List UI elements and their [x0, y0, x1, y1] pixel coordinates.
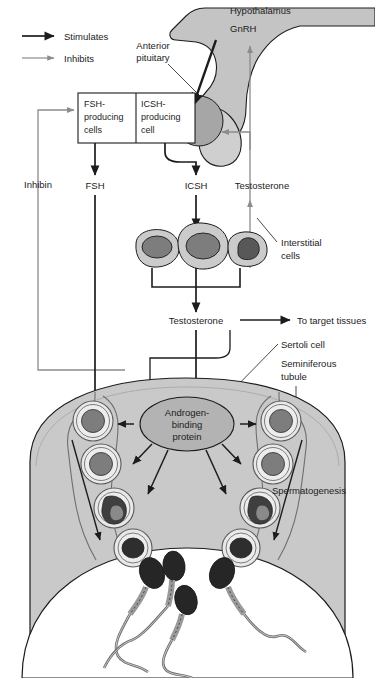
interstitial-nucleus-left [142, 236, 172, 258]
testosterone-tubule-branch [150, 330, 230, 380]
inhibin-feedback-path [38, 110, 125, 370]
spermatogenesis-label: Spermatogenesis [272, 485, 346, 496]
pituitary-cell-box: FSH- producing cells ICSH- producing cel… [78, 93, 195, 143]
anterior-pituitary-label-line1: Anterior [136, 40, 169, 51]
germ-cell-nucleus [270, 410, 293, 433]
legend: Stimulates Inhibits [22, 31, 109, 64]
gnrh-label: GnRH [230, 23, 257, 34]
seminiferous-label-line1: Seminiferous [281, 358, 337, 369]
germ-cell-left-1 [73, 401, 113, 441]
interstitial-nucleus-right [238, 238, 259, 260]
seminiferous-label-line2: tubule [281, 371, 307, 382]
testosterone-upper-label: Testosterone [235, 180, 289, 191]
interstitial-cell-left [136, 230, 179, 268]
icsh-cell-line2: producing [141, 112, 181, 122]
interstitial-label-line2: cells [281, 250, 300, 261]
interstitial-cell-right [228, 232, 267, 267]
germ-cell-left-3 [94, 488, 134, 528]
legend-item-inhibits: Inhibits [22, 53, 94, 64]
legend-item-stimulates: Stimulates [22, 31, 109, 42]
germ-cell-right-1 [261, 401, 301, 441]
testosterone-lower-label: Testosterone [169, 315, 223, 326]
interstitial-label-line1: Interstitial [281, 237, 322, 248]
interstitial-cell-middle [178, 223, 228, 269]
fsh-cell-line1: FSH- [84, 99, 105, 109]
icsh-label: ICSH [185, 180, 208, 191]
fsh-cell-line2: producing [84, 112, 124, 122]
to-target-tissues-label: To target tissues [297, 315, 366, 326]
legend-label-inhibits: Inhibits [64, 53, 94, 64]
hypothalamus-label: Hypothalamus [230, 5, 291, 16]
abp-label-line1: Androgen- [165, 407, 209, 418]
germ-cell-nucleus [82, 410, 105, 433]
germ-cell-nucleus [262, 453, 285, 476]
inhibin-label: Inhibin [24, 179, 52, 190]
sertoli-cell-label: Sertoli cell [281, 339, 325, 350]
abp-label-line3: protein [172, 431, 201, 442]
icsh-arrow-upper [165, 143, 196, 175]
germ-cell-right-2 [253, 444, 293, 484]
germ-cell-nucleus-dark [230, 538, 252, 558]
germ-cell-left-2 [81, 444, 121, 484]
anterior-pituitary-label-line2: pituitary [136, 52, 170, 63]
diagram-root: Stimulates Inhibits Hypothalamus GnRH An… [0, 0, 375, 678]
germ-cell-nucleus [90, 453, 113, 476]
germ-cell-nucleus-dark [122, 538, 144, 558]
icsh-cell-line1: ICSH- [141, 99, 166, 109]
interstitial-nucleus-middle [186, 233, 220, 259]
abp-label-line2: binding [172, 419, 203, 430]
interstitial-cells-group: Interstitial cells [136, 218, 322, 312]
seminiferous-tubule: Androgen- binding protein [22, 378, 353, 678]
fsh-label: FSH [86, 180, 105, 191]
fsh-cell-line3: cells [84, 125, 103, 135]
icsh-cell-line3: cell [141, 125, 155, 135]
legend-label-stimulates: Stimulates [64, 31, 109, 42]
hormone-regulation-diagram: Stimulates Inhibits Hypothalamus GnRH An… [0, 0, 375, 678]
anterior-pituitary-leader-line [168, 64, 200, 96]
